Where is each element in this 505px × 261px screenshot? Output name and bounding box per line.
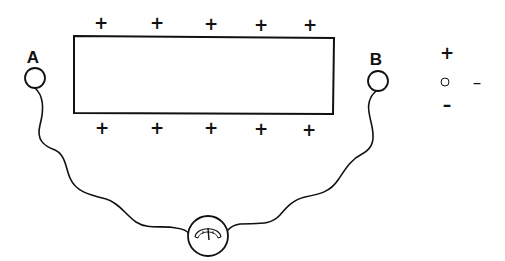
terminal-b-circle [368, 71, 388, 91]
legend-plus-icon: + [440, 45, 454, 62]
bottom-charge-plus-icon: + [204, 120, 218, 137]
legend-neutral-dash: – [473, 74, 482, 91]
bottom-charge-plus-icon: + [150, 120, 164, 137]
terminal-b-label: B [370, 51, 382, 68]
wire-a [35, 88, 189, 234]
bottom-charge-plus-icon: + [254, 121, 268, 138]
legend-neutral-circle-icon [441, 78, 449, 86]
top-charge-plus-icon: + [94, 15, 108, 32]
top-charge-plus-icon: + [303, 17, 317, 34]
galvanometer-icon [188, 216, 228, 256]
wire-b [227, 91, 376, 231]
legend-minus-icon: – [443, 97, 452, 114]
bottom-charge-plus-icon: + [302, 122, 316, 139]
top-charge-plus-icon: + [204, 16, 218, 33]
diagram-canvas [0, 0, 505, 261]
terminal-a-label: A [27, 49, 39, 66]
terminal-a-circle [25, 68, 45, 88]
top-charge-plus-icon: + [150, 15, 164, 32]
top-charge-plus-icon: + [254, 17, 268, 34]
bottom-charge-plus-icon: + [95, 120, 109, 137]
charged-plate [74, 36, 334, 114]
